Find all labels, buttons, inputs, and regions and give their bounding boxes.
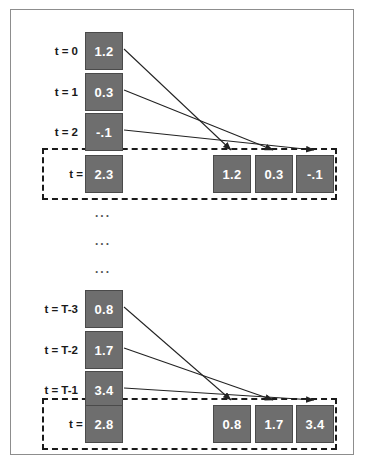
time-label-t0: t = 0 <box>16 32 82 70</box>
time-label-tT2: t = T-2 <box>16 331 82 369</box>
ellipsis-row-3: ... <box>83 262 123 276</box>
series-cell-tT2: 1.7 <box>85 331 123 369</box>
series-cell-tT3: 0.8 <box>85 290 123 328</box>
context-cell-top-1: 1.2 <box>213 155 251 193</box>
time-label-tT3: t = T-3 <box>16 290 82 328</box>
series-cell-t3: 2.3 <box>85 155 123 193</box>
time-label-t2: t = 2 <box>16 113 82 151</box>
series-cell-t1: 0.3 <box>85 73 123 111</box>
series-cell-tT1: 3.4 <box>85 371 123 409</box>
ellipsis-row-1: ... <box>83 206 123 220</box>
series-cell-tT: 2.8 <box>85 405 123 443</box>
context-cell-top-3: -.1 <box>296 155 334 193</box>
context-cell-bottom-3: 3.4 <box>296 405 334 443</box>
time-label-t1: t = 1 <box>16 73 82 111</box>
series-cell-t0: 1.2 <box>85 32 123 70</box>
time-label-tT1: t = T-1 <box>16 371 82 409</box>
ellipsis-row-2: ... <box>83 234 123 248</box>
diagram-canvas: t = 0 t = 1 t = 2 t = 3 1.2 0.3 -.1 2.3 … <box>0 0 373 473</box>
context-cell-bottom-1: 0.8 <box>213 405 251 443</box>
series-cell-t2: -.1 <box>85 113 123 151</box>
context-cell-bottom-2: 1.7 <box>255 405 293 443</box>
context-cell-top-2: 0.3 <box>255 155 293 193</box>
